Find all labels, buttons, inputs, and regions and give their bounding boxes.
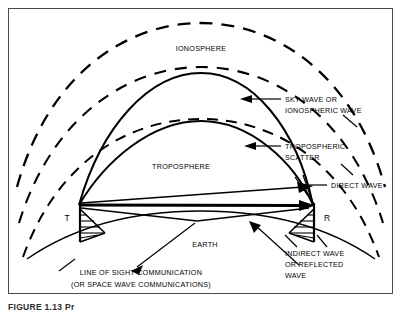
troposphere-region-label: TROPOSPHERE xyxy=(152,162,210,171)
sky-wave-callout-line1: SKY WAVE OR xyxy=(285,95,337,104)
direct-wave-secondary-line xyxy=(81,187,303,203)
sky-wave-leader-arrowhead xyxy=(240,95,252,103)
direct-wave-line xyxy=(81,205,305,206)
los-leader-right-line xyxy=(137,223,195,267)
los-leader-left-line xyxy=(59,259,75,271)
sky-wave-path xyxy=(79,73,313,205)
receiver-marker-label: R xyxy=(324,213,330,223)
ionosphere-region-label: IONOSPHERE xyxy=(176,44,226,53)
direct-wave-path xyxy=(81,200,315,211)
reflected-wave-down-leg xyxy=(81,208,197,221)
decor-leader-tick xyxy=(341,164,353,175)
transmitter-marker-label: T xyxy=(64,213,69,223)
line-of-sight-note-line2: (OR SPACE WAVE COMMUNICATIONS) xyxy=(71,280,211,289)
indirect-wave-callout-line3: WAVE xyxy=(285,271,306,280)
line-of-sight-note-line1: LINE OF SIGHT COMMUNICATION xyxy=(80,268,202,277)
troposcatter-leader-arrowhead xyxy=(244,142,256,150)
indirect-reflected-wave-path xyxy=(81,208,309,221)
figure-caption: FIGURE 1.13 Pr xyxy=(8,302,75,312)
tropospheric-scatter-callout-line1: TROPOSPHERIC xyxy=(285,142,346,151)
indirect-wave-callout-line1: INDIRECT WAVE xyxy=(285,249,344,258)
propagation-diagram: IONOSPHERE TROPOSPHERE EARTH T R SKY WAV… xyxy=(9,9,394,295)
diagram-frame: IONOSPHERE TROPOSPHERE EARTH T R SKY WAV… xyxy=(8,8,393,294)
reflected-wave-up-leg xyxy=(197,208,309,221)
decor-leader-tick xyxy=(285,235,297,247)
indirect-leader-line xyxy=(255,225,299,265)
bottom-note-leaders xyxy=(59,221,299,275)
decor-leader-tick xyxy=(343,115,357,127)
direct-wave-secondary xyxy=(81,182,313,203)
figure-root: IONOSPHERE TROPOSPHERE EARTH T R SKY WAV… xyxy=(0,0,403,315)
indirect-wave-callout-line2: OR REFLECTED xyxy=(285,260,344,269)
tropospheric-scatter-callout-line2: SCATTER xyxy=(285,153,320,162)
earth-region-label: EARTH xyxy=(192,240,217,249)
direct-wave-callout-line1: DIRECT WAVE xyxy=(331,181,383,190)
sky-wave-callout-line2: IONOSPHERIC WAVE xyxy=(285,106,362,115)
figure-caption-strip: FIGURE 1.13 Pr xyxy=(8,300,393,315)
ionosphere-arc-inner xyxy=(23,119,379,257)
indirect-leader-arrowhead-up xyxy=(249,221,261,233)
decor-leader-tick xyxy=(317,235,327,247)
sky-wave-up-leg xyxy=(79,73,201,205)
